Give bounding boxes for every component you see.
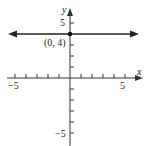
y-axis bbox=[67, 8, 74, 146]
point-0-4 bbox=[68, 32, 72, 36]
y-axis-label: y bbox=[62, 5, 66, 15]
point-label: (0, 4) bbox=[44, 38, 66, 48]
line-y-equals-4 bbox=[8, 31, 139, 38]
left-arrow-icon bbox=[8, 31, 17, 38]
x-axis-label: x bbox=[137, 67, 141, 77]
x-tick-label-neg5: −5 bbox=[8, 81, 19, 91]
coordinate-plane bbox=[0, 0, 147, 146]
x-tick-label-5: 5 bbox=[120, 81, 125, 91]
right-arrow-icon bbox=[130, 31, 139, 38]
y-tick-label-5: 5 bbox=[60, 18, 65, 28]
y-axis-arrow-icon bbox=[67, 8, 73, 16]
y-tick-label-neg5: −5 bbox=[55, 129, 66, 139]
